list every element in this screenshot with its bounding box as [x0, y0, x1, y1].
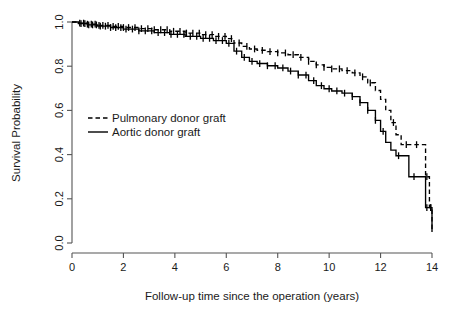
- x-axis: 02468101214: [69, 253, 438, 273]
- y-tick-label: 0.0: [53, 235, 65, 250]
- x-tick-label: 14: [426, 261, 438, 273]
- y-axis-title: Survival Probability: [10, 84, 22, 182]
- legend-label-1: Pulmonary donor graft: [112, 112, 227, 124]
- x-tick-label: 2: [120, 261, 126, 273]
- x-tick-label: 0: [69, 261, 75, 273]
- y-tick-label: 0.8: [53, 59, 65, 74]
- x-tick-label: 4: [172, 261, 178, 273]
- x-tick-label: 10: [323, 261, 335, 273]
- y-tick-label: 0.4: [53, 147, 65, 162]
- y-tick-label: 1.0: [53, 14, 65, 29]
- y-tick-label: 0.6: [53, 103, 65, 118]
- y-tick-label: 0.2: [53, 191, 65, 206]
- x-tick-label: 6: [223, 261, 229, 273]
- x-tick-label: 12: [374, 261, 386, 273]
- y-axis: 0.00.20.40.60.81.0: [53, 14, 72, 250]
- x-axis-title: Follow-up time since the operation (year…: [145, 290, 359, 302]
- survival-chart: 0.00.20.40.60.81.0 02468101214 Survival …: [0, 0, 462, 315]
- chart-canvas: 0.00.20.40.60.81.0 02468101214 Survival …: [0, 0, 462, 315]
- chart-legend: Pulmonary donor graftAortic donor graft: [88, 112, 227, 138]
- legend-label-2: Aortic donor graft: [112, 126, 201, 138]
- x-tick-label: 8: [275, 261, 281, 273]
